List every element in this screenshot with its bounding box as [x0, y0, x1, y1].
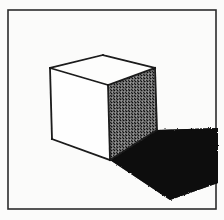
cube-drawing [0, 0, 224, 220]
figure-root: Shaded cube with cast shadow Black and w… [0, 0, 224, 220]
